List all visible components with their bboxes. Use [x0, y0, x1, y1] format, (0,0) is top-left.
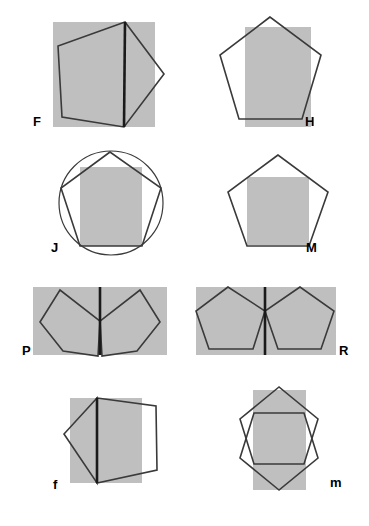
panel-F-gray-rect — [53, 22, 155, 127]
panel-label-P: P — [22, 343, 31, 358]
panel-H-gray-rect — [245, 27, 311, 127]
panel-J — [59, 151, 163, 255]
panel-H — [220, 17, 321, 127]
panel-J-gray-rect — [80, 167, 142, 246]
figure-canvas: FHJMPRfm — [0, 0, 369, 526]
panel-label-M: M — [306, 240, 317, 255]
panel-M — [228, 155, 328, 246]
panel-label-f: f — [53, 477, 58, 492]
panel-f-gray-rect — [70, 398, 142, 483]
figure-svg: FHJMPRfm — [0, 0, 369, 526]
panel-label-m: m — [330, 475, 342, 490]
panel-F — [53, 22, 164, 127]
panel-R — [196, 287, 336, 355]
panel-F-chord-line — [124, 22, 125, 127]
panel-M-gray-rect — [247, 177, 309, 245]
panels-layer — [33, 17, 336, 490]
panel-P — [33, 287, 167, 356]
panel-label-J: J — [51, 240, 58, 255]
panel-f — [64, 398, 157, 483]
panel-label-R: R — [339, 343, 349, 358]
panel-label-H: H — [305, 114, 314, 129]
panel-m — [240, 387, 318, 490]
panel-label-F: F — [33, 114, 41, 129]
